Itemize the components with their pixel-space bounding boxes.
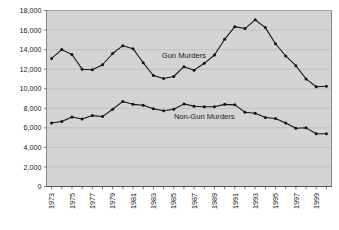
x-tick-label: 1979	[108, 193, 117, 209]
y-tick-label: 18,000	[20, 6, 42, 15]
data-point	[203, 105, 206, 108]
data-point	[81, 68, 84, 71]
data-point	[50, 57, 53, 60]
y-tick-label: 12,000	[20, 65, 42, 74]
x-tick-label: 1993	[251, 193, 260, 209]
data-point	[254, 112, 257, 115]
x-tick-label: 1985	[169, 193, 178, 209]
data-point	[193, 105, 196, 108]
data-point	[142, 104, 145, 107]
data-point	[264, 116, 267, 119]
y-tick-label: 2,000	[24, 163, 42, 172]
x-tick-label: 1975	[68, 193, 77, 209]
x-tick-label: 1983	[149, 193, 158, 209]
data-point	[91, 68, 94, 71]
line-chart: 02,0004,0006,0008,00010,00012,00014,0001…	[0, 0, 339, 230]
y-tick-label: 14,000	[20, 45, 42, 54]
x-tick-label: 1997	[292, 193, 301, 209]
data-point	[243, 111, 246, 114]
data-point	[294, 64, 297, 67]
data-point	[70, 116, 73, 119]
data-point	[203, 62, 206, 65]
y-tick-label: 0	[38, 182, 42, 191]
data-point	[182, 65, 185, 68]
data-point	[182, 102, 185, 105]
data-point	[325, 132, 328, 135]
data-point	[60, 120, 63, 123]
data-point	[213, 105, 216, 108]
data-point	[223, 38, 226, 41]
data-point	[121, 44, 124, 47]
data-point	[233, 25, 236, 28]
y-tick-label: 8,000	[24, 104, 42, 113]
data-point	[132, 103, 135, 106]
data-point	[132, 47, 135, 50]
y-tick-label: 4,000	[24, 143, 42, 152]
data-point	[325, 85, 328, 88]
y-tick-label: 10,000	[20, 84, 42, 93]
x-tick-label: 1973	[47, 193, 56, 209]
series-label-1: Gun Murders	[162, 51, 207, 60]
data-point	[91, 114, 94, 117]
series-label-2: Non-Gun Murders	[174, 112, 235, 121]
data-point	[70, 53, 73, 56]
x-tick-label: 1977	[88, 193, 97, 209]
data-point	[305, 126, 308, 129]
data-point	[111, 108, 114, 111]
data-point	[81, 118, 84, 121]
data-point	[264, 26, 267, 29]
data-point	[294, 127, 297, 130]
data-point	[172, 108, 175, 111]
y-tick-label: 16,000	[20, 26, 42, 35]
data-point	[274, 117, 277, 120]
data-point	[274, 42, 277, 45]
data-point	[101, 115, 104, 118]
data-point	[152, 74, 155, 77]
data-point	[254, 18, 257, 21]
chart-container: 02,0004,0006,0008,00010,00012,00014,0001…	[0, 0, 339, 230]
data-point	[315, 132, 318, 135]
data-point	[193, 69, 196, 72]
data-point	[223, 103, 226, 106]
plot-area	[47, 11, 332, 187]
x-tick-label: 1999	[312, 193, 321, 209]
data-point	[60, 48, 63, 51]
data-point	[111, 52, 114, 55]
data-point	[233, 103, 236, 106]
x-tick-label: 1981	[129, 193, 138, 209]
data-point	[315, 85, 318, 88]
x-tick-label: 1989	[210, 193, 219, 209]
data-point	[101, 63, 104, 66]
data-point	[284, 54, 287, 57]
data-point	[172, 75, 175, 78]
x-tick-label: 1995	[271, 193, 280, 209]
data-point	[305, 77, 308, 80]
data-point	[152, 107, 155, 110]
data-point	[162, 109, 165, 112]
x-tick-label: 1987	[190, 193, 199, 209]
data-point	[284, 121, 287, 124]
data-point	[50, 121, 53, 124]
data-point	[213, 53, 216, 56]
data-point	[162, 77, 165, 80]
x-tick-label: 1991	[231, 193, 240, 209]
data-point	[243, 27, 246, 30]
data-point	[121, 100, 124, 103]
data-point	[142, 61, 145, 64]
y-tick-label: 6,000	[24, 123, 42, 132]
